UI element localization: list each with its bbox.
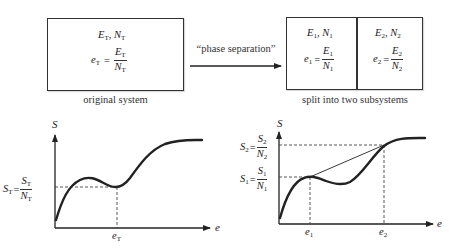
- denominator: N: [21, 190, 28, 201]
- right-s2-level-label: S2 = S2 N2: [240, 134, 267, 161]
- left-x-axis-label: e: [215, 221, 220, 233]
- denominator: N: [257, 148, 264, 159]
- equals-sign: =: [250, 174, 256, 185]
- left-chart: [55, 135, 210, 228]
- fraction: S1 N1: [257, 166, 268, 193]
- right-s1-level-label: S1 = S1 N1: [240, 166, 267, 193]
- entropy-subscript: T: [8, 188, 12, 196]
- left-y-axis-label: S: [52, 118, 58, 130]
- numerator-subscript: 1: [263, 170, 267, 178]
- entropy-subscript: 1: [245, 178, 249, 186]
- tick-subscript: 2: [384, 231, 388, 239]
- common-tangent-line: [310, 145, 384, 177]
- numerator-subscript: 2: [263, 138, 267, 146]
- right-entropy-curve: [280, 138, 425, 218]
- left-level-label: ST = ST NT: [3, 176, 32, 203]
- denominator-subscript: T: [28, 195, 32, 203]
- tick-subscript: 1: [310, 231, 314, 239]
- right-x-axis-label: e: [437, 217, 442, 229]
- denominator-subscript: 2: [264, 153, 268, 161]
- right-x-tick-e2: e2: [379, 226, 387, 239]
- denominator: N: [257, 180, 264, 191]
- left-x-tick-label: eT: [112, 230, 121, 243]
- right-x-tick-e1: e1: [305, 226, 313, 239]
- left-entropy-curve: [56, 140, 202, 220]
- fraction: ST NT: [20, 176, 32, 203]
- fraction: S2 N2: [257, 134, 268, 161]
- tick-subscript: T: [117, 235, 121, 243]
- numerator-subscript: T: [27, 180, 31, 188]
- equals-sign: =: [14, 184, 20, 195]
- denominator-subscript: 1: [264, 185, 268, 193]
- equals-sign: =: [250, 142, 256, 153]
- diagram-graphics: [0, 0, 458, 248]
- right-chart: [279, 132, 433, 224]
- entropy-subscript: 2: [245, 146, 249, 154]
- right-y-axis-label: S: [277, 117, 283, 129]
